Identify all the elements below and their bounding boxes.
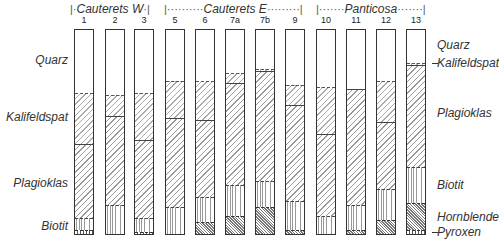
group-label-panticosa: |·······Panticosa·······| [316,2,426,16]
left-label-kalifeldspat: Kalifeldspat [0,110,68,124]
bar-sample-9 [285,29,305,235]
segment-pyroxen [75,230,93,234]
sample-number: 12 [374,15,398,25]
segment-hornblende [347,230,365,234]
segment-quarz [75,30,93,93]
left-label-quarz: Quarz [0,53,68,67]
sample-number: 1 [72,15,96,25]
bar-sample-13 [406,29,426,235]
segment-hornblende [226,216,244,234]
sample-number: 11 [344,15,368,25]
segment-hornblende [286,230,304,234]
segment-plagioklas [407,65,425,167]
segment-pyroxen [135,232,153,234]
segment-kalifeldspat [317,87,335,134]
segment-biotit [317,216,335,234]
segment-biotit [166,207,184,234]
right-label-pyroxen: Pyroxen [437,225,481,239]
segment-plagioklas [75,144,93,217]
sample-number: 9 [283,15,307,25]
segment-plagioklas [135,140,153,218]
segment-plagioklas [347,89,365,205]
segment-plagioklas [286,105,304,201]
segment-plagioklas [377,122,395,189]
segment-quarz [347,30,365,89]
segment-biotit [286,201,304,230]
segment-kalifeldspat [166,81,184,118]
segment-pyroxen [407,230,425,234]
segment-plagioklas [317,134,335,216]
group-label-cauterets-e: |··········Cauterets E·········| [164,2,303,16]
segment-hornblende [407,203,425,230]
left-label-plagioklas: Plagioklas [0,176,68,190]
bar-sample-12 [376,29,396,235]
segment-quarz [317,30,335,87]
segment-kalifeldspat [226,73,244,83]
segment-kalifeldspat [286,85,304,105]
sample-number: 3 [132,15,156,25]
sample-number: 13 [404,15,428,25]
segment-biotit [407,167,425,204]
right-label-quarz: Quarz [437,38,470,52]
segment-quarz [226,30,244,73]
segment-plagioklas [166,118,184,208]
bar-sample-11 [346,29,366,235]
segment-plagioklas [196,120,214,198]
segment-quarz [256,30,274,69]
sample-number: 7a [223,15,247,25]
left-label-biotit: Biotit [0,219,68,233]
bar-sample-10 [316,29,336,235]
bar-sample-7b [255,29,275,235]
segment-biotit [256,181,274,208]
right-label-kalifeldspat: Kalifeldspat [437,56,499,70]
segment-kalifeldspat [135,93,153,140]
segment-kalifeldspat [196,81,214,120]
segment-kalifeldspat [75,93,93,144]
segment-biotit [196,197,214,221]
bar-sample-3 [134,29,154,235]
segment-kalifeldspat [106,95,124,115]
segment-biotit [106,205,124,234]
segment-plagioklas [226,83,244,185]
segment-quarz [106,30,124,95]
sample-number: 7b [253,15,277,25]
group-name: Panticosa [345,2,398,16]
segment-hornblende [377,220,395,234]
segment-plagioklas [256,71,274,181]
group-name: Cauterets E [204,2,267,16]
bar-sample-2 [105,29,125,235]
segment-quarz [135,30,153,93]
bar-sample-5 [165,29,185,235]
bar-sample-6 [195,29,215,235]
right-label-hornblende: Hornblende [437,210,499,224]
segment-quarz [196,30,214,81]
sample-number: 5 [163,15,187,25]
segment-biotit [347,205,365,229]
bar-sample-1 [74,29,94,235]
sample-number: 2 [103,15,127,25]
segment-hornblende [196,222,214,234]
segment-biotit [135,218,153,232]
sample-number: 6 [193,15,217,25]
group-name: Cauterets W [77,2,144,16]
right-label-plagioklas: Plagioklas [437,106,492,120]
sample-number: 10 [314,15,338,25]
segment-plagioklas [106,116,124,206]
segment-biotit [226,185,244,216]
segment-quarz [286,30,304,85]
bar-sample-7a [225,29,245,235]
segment-quarz [166,30,184,81]
right-label-biotit: Biotit [437,178,464,192]
segment-hornblende [256,207,274,234]
group-label-cauterets-w: |·Cauterets W·| [70,2,150,16]
segment-quarz [377,30,395,81]
segment-quarz [407,30,425,63]
segment-kalifeldspat [377,81,395,122]
segment-biotit [377,189,395,220]
segment-biotit [75,218,93,230]
